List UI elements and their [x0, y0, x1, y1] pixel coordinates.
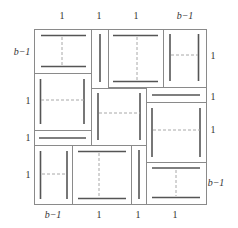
- outer-square: [35, 30, 207, 205]
- label-bottom-2: 1: [97, 209, 102, 220]
- label-top-1: 1: [60, 10, 65, 21]
- label-bottom-4: 1: [173, 209, 178, 220]
- tile-b: [109, 30, 164, 88]
- label-top-3: 1: [134, 10, 139, 21]
- label-left-2: 1: [26, 95, 31, 106]
- dashed-lines: [41, 37, 200, 197]
- label-right-1: 1: [211, 50, 216, 61]
- label-left-1: b−1: [14, 46, 31, 57]
- label-bottom-1: b−1: [45, 209, 62, 220]
- label-bottom-3: 1: [136, 209, 141, 220]
- label-right-4: b−1: [208, 177, 225, 188]
- tile-e: [92, 89, 147, 146]
- tiling-diagram: 1 1 1 b−1 b−1 1 1 1 1 1 1 b−1 b−1 1 1 1: [0, 0, 238, 228]
- tile-f: [147, 103, 207, 163]
- label-top-4: b−1: [177, 10, 194, 21]
- tile-d: [35, 74, 92, 131]
- label-right-3: 1: [211, 124, 216, 135]
- label-left-4: 1: [26, 169, 31, 180]
- label-right-2: 1: [211, 91, 216, 102]
- label-top-2: 1: [97, 10, 102, 21]
- tile-h: [73, 146, 132, 205]
- label-left-3: 1: [26, 132, 31, 143]
